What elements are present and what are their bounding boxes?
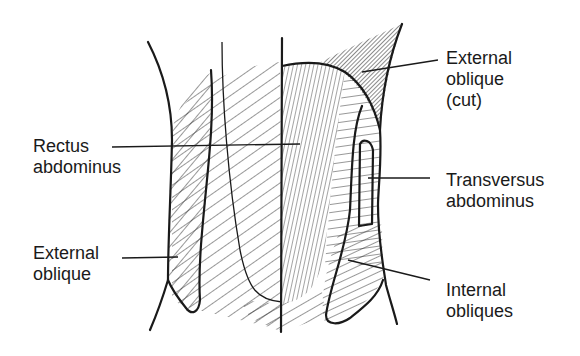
label-internal-obliques: Internal obliques	[446, 280, 513, 322]
label-external-oblique: External oblique	[33, 243, 99, 285]
label-rectus-abdominus: Rectus abdominus	[33, 136, 121, 178]
label-transversus-abdominus: Transversus abdominus	[446, 170, 544, 212]
midline-linea-alba	[281, 38, 282, 332]
body-left-outline	[148, 42, 172, 330]
label-external-oblique-cut: External oblique (cut)	[446, 48, 512, 111]
